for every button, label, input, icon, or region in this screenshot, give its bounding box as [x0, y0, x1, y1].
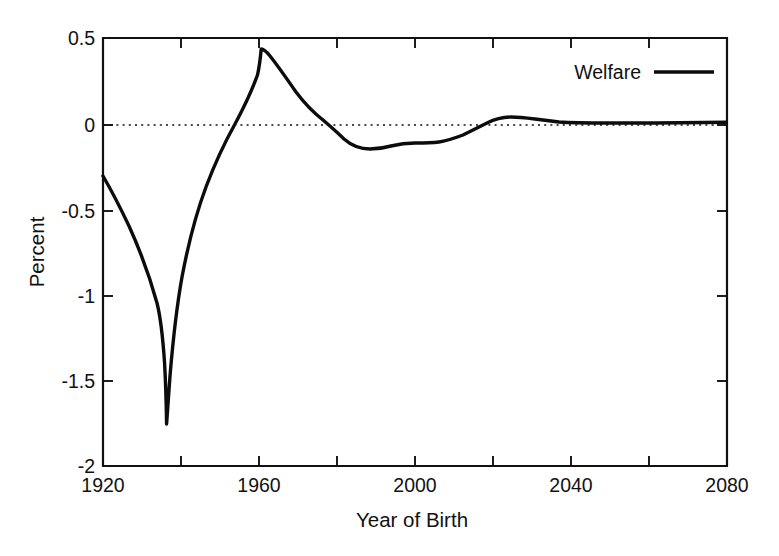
- y-tick-label-2: -0.5: [61, 200, 95, 222]
- x-tick-label-1920: 1920: [81, 474, 125, 496]
- plot-frame: [103, 38, 727, 466]
- top-axis-ticks: [181, 38, 649, 48]
- x-axis-title: Year of Birth: [356, 508, 468, 531]
- y-tick-label-0: 0.5: [68, 27, 95, 49]
- chart-svg: 0.5 0 -0.5 -1 -1.5 -2: [0, 0, 779, 556]
- x-tick-label-2080: 2080: [705, 474, 749, 496]
- y-tick-label-3: -1: [78, 285, 95, 307]
- x-tick-label-1960: 1960: [237, 474, 281, 496]
- x-tick-label-2000: 2000: [393, 474, 437, 496]
- y-axis-tick-labels: 0.5 0 -0.5 -1 -1.5 -2: [61, 27, 95, 477]
- y-axis-ticks: [103, 38, 113, 466]
- x-tick-label-2040: 2040: [549, 474, 593, 496]
- right-axis-ticks: [717, 125, 727, 381]
- welfare-chart-figure: 0.5 0 -0.5 -1 -1.5 -2: [0, 0, 779, 556]
- legend: Welfare: [574, 61, 714, 83]
- series-line-welfare: [103, 49, 726, 424]
- y-tick-label-1: 0: [84, 114, 95, 136]
- y-tick-label-4: -1.5: [61, 370, 95, 392]
- x-axis-tick-labels: 1920 1960 2000 2040 2080: [81, 474, 749, 496]
- y-axis-title: Percent: [25, 216, 48, 287]
- x-axis-ticks: [103, 456, 727, 466]
- legend-label-welfare: Welfare: [574, 61, 641, 83]
